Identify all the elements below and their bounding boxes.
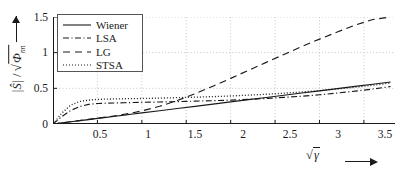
y-tick-label-0_5: 0.5 [22,82,48,94]
x-tick-label-3: 3 [325,128,351,140]
legend-label-stsa: STSA [96,59,123,71]
x-tick-label-0_5: 0.5 [87,128,113,140]
x-tick-label-2: 2 [230,128,256,140]
x-tick-label-1_5: 1.5 [182,128,208,140]
legend-item-lsa: LSA [58,32,142,45]
chart-figure: |Ŝ| / √Φnn 1.5 1 0.5 0 0.5 1 1.5 2 2.5 3… [0,0,406,174]
legend-item-lg: LG [58,45,142,58]
y-tick-label-1: 1 [22,46,48,58]
x-axis-arrow-icon [345,157,379,166]
legend-item-stsa: STSA [58,59,142,72]
chart-legend: Wiener LSA LG STSA [57,14,143,72]
x-tick-label-2_5: 2.5 [277,128,303,140]
y-tick-label-1_5: 1.5 [22,11,48,23]
legend-swatch-dashdot-icon [62,32,92,44]
legend-label-lg: LG [96,46,111,58]
legend-swatch-dotted-icon [62,59,92,71]
y-tick-label-0: 0 [22,118,48,130]
legend-label-wiener: Wiener [96,19,128,31]
x-tick-label-3_5: 3.5 [372,128,398,140]
y-axis-label-group: |Ŝ| / √Φnn [0,14,36,126]
legend-swatch-dashed-icon [62,46,92,58]
legend-label-lsa: LSA [96,32,117,44]
x-tick-label-1: 1 [135,128,161,140]
legend-swatch-solid-icon [62,19,92,31]
series-line-lsa [53,87,391,124]
legend-item-wiener: Wiener [58,18,142,31]
x-axis-label: √γ [306,148,320,163]
